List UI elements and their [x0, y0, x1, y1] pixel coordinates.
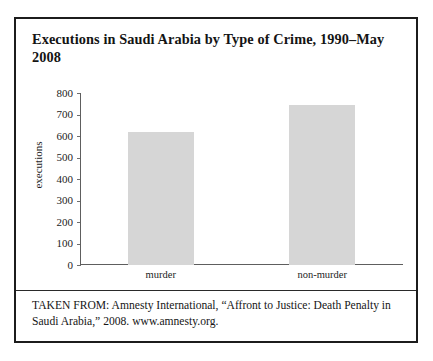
y-tick-label: 100 [39, 238, 73, 249]
y-tick-mark [77, 265, 81, 266]
y-tick-label: 400 [39, 174, 73, 185]
caption-divider [16, 290, 416, 291]
y-axis-tick-labels: 8007006005004003002001000 [35, 19, 73, 269]
plot-area: executions 8007006005004003002001000 mur… [16, 19, 416, 309]
y-tick-label: 200 [39, 217, 73, 228]
bar-non-murder [289, 105, 355, 265]
x-axis-category-labels: murdernon-murder [80, 269, 403, 287]
y-tick-label: 300 [39, 195, 73, 206]
x-tick-label: non-murder [262, 269, 382, 280]
y-tick-label: 700 [39, 109, 73, 120]
bar-murder [128, 132, 194, 265]
y-tick-label: 500 [39, 152, 73, 163]
y-tick-label: 600 [39, 131, 73, 142]
y-tick-label: 800 [39, 88, 73, 99]
figure-bordered-panel: Executions in Saudi Arabia by Type of Cr… [14, 17, 418, 343]
x-tick-label: murder [101, 269, 221, 280]
bar-series [80, 93, 403, 265]
source-caption: TAKEN FROM: Amnesty International, “Affr… [32, 298, 404, 331]
y-tick-label: 0 [39, 260, 73, 271]
figure-root: Executions in Saudi Arabia by Type of Cr… [0, 0, 433, 361]
